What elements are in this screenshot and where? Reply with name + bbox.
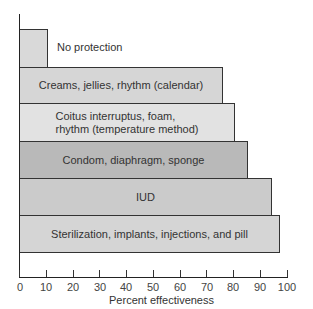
- bar-label-iud: IUD: [136, 191, 155, 204]
- x-tick: [46, 270, 47, 277]
- x-tick: [19, 270, 20, 277]
- x-tick: [260, 270, 261, 277]
- x-tick: [233, 270, 234, 277]
- x-tick-label: 80: [218, 281, 248, 293]
- bar-label-coitus: Coitus interruptus, foam, rhythm (temper…: [55, 110, 198, 136]
- x-tick-label: 40: [111, 281, 141, 293]
- bar-creams: Creams, jellies, rhythm (calendar): [20, 67, 223, 104]
- bar-label-no-protection: No protection: [57, 41, 122, 53]
- x-tick-label: 90: [245, 281, 275, 293]
- bar-iud: IUD: [20, 178, 272, 216]
- bar-label-sterilization: Sterilization, implants, injections, and…: [51, 228, 248, 241]
- x-tick-label: 50: [138, 281, 168, 293]
- bar-no-protection: [20, 29, 48, 68]
- x-axis-title: Percent effectiveness: [0, 294, 313, 306]
- x-tick-label: 20: [58, 281, 88, 293]
- x-tick-label: 60: [165, 281, 195, 293]
- x-tick: [287, 270, 288, 277]
- bar-coitus: Coitus interruptus, foam, rhythm (temper…: [20, 103, 235, 142]
- bar-label-creams: Creams, jellies, rhythm (calendar): [39, 79, 203, 92]
- bar-condom: Condom, diaphragm, sponge: [20, 141, 248, 179]
- x-tick: [126, 270, 127, 277]
- x-tick: [206, 270, 207, 277]
- x-tick: [73, 270, 74, 277]
- x-tick-label: 10: [31, 281, 61, 293]
- x-tick-label: 100: [272, 281, 302, 293]
- x-tick: [153, 270, 154, 277]
- bar-label-condom: Condom, diaphragm, sponge: [63, 154, 205, 167]
- bar-sterilization: Sterilization, implants, injections, and…: [20, 215, 280, 253]
- x-axis-line: [19, 277, 288, 278]
- x-tick: [99, 270, 100, 277]
- x-tick: [180, 270, 181, 277]
